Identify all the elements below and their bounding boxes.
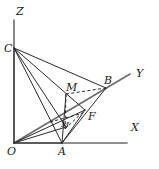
figure-canvas <box>0 0 159 169</box>
segment-o-f <box>14 110 85 143</box>
geometry-figure: Z Y X O A B C F M M <box>0 0 159 169</box>
point-label-m: M <box>66 82 77 93</box>
point-label-m1: M <box>61 121 69 129</box>
axis-label-y: Y <box>136 68 143 79</box>
segment-c-m1 <box>14 48 66 127</box>
solid-lines-group <box>14 48 106 143</box>
point-label-c: C <box>4 43 12 54</box>
point-label-a: A <box>58 146 66 157</box>
segment-c-b <box>14 48 106 88</box>
axis-label-x: X <box>131 122 139 133</box>
point-label-b: B <box>104 75 112 86</box>
segment-c-f <box>14 48 85 110</box>
axis-label-z: Z <box>16 6 24 17</box>
point-label-f: F <box>88 111 96 122</box>
point-label-o: O <box>7 146 16 157</box>
